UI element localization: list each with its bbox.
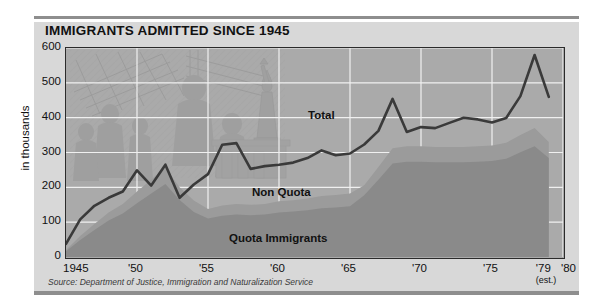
page-title: IMMIGRANTS ADMITTED SINCE 1945 [45, 23, 290, 38]
chart-svg [66, 48, 563, 257]
y-axis-tick-label: 0 [55, 249, 61, 261]
series-label-non-quota: Non Quota [252, 186, 311, 198]
plot-area: Total Non Quota Quota Immigrants [65, 47, 565, 259]
bottom-rule [34, 291, 579, 295]
x-axis-tick-label: '70 [412, 262, 427, 274]
chart-page: IMMIGRANTS ADMITTED SINCE 1945 in thousa… [0, 0, 593, 306]
y-axis-labels: 0100200300400500600 [31, 40, 61, 266]
x-axis-tick-label: '80 [561, 262, 576, 274]
x-axis-tick-label: '55 [199, 262, 214, 274]
y-axis-tick-label: 600 [42, 40, 61, 52]
x-axis-tick-label: 1945 [63, 262, 89, 274]
x-axis-tick-label: '50 [128, 262, 143, 274]
y-axis-tick-label: 300 [42, 145, 61, 157]
y-axis-tick-label: 400 [42, 110, 61, 122]
source-note: Source: Department of Justice, Immigrati… [48, 277, 313, 287]
estimate-note: (est.) [536, 275, 557, 285]
series-label-total: Total [308, 109, 335, 121]
series-label-quota-immigrants: Quota Immigrants [229, 232, 327, 244]
y-axis-tick-label: 500 [42, 75, 61, 87]
y-axis-tick-label: 100 [42, 214, 61, 226]
x-axis-tick-label: '75 [483, 262, 498, 274]
top-rule [34, 16, 579, 19]
x-axis-tick-label: '60 [270, 262, 285, 274]
x-axis-tick-label: '79 [536, 262, 551, 274]
y-axis-tick-label: 200 [42, 179, 61, 191]
immigrant-engraving-illustration [70, 50, 290, 181]
y-axis-title: in thousands [19, 93, 31, 183]
x-axis-tick-label: '65 [341, 262, 356, 274]
